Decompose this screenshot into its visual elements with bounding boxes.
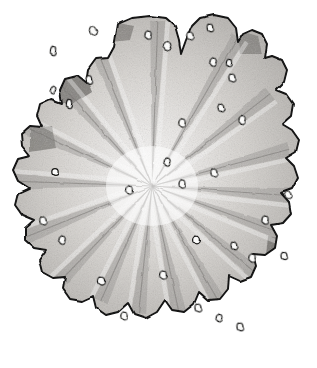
pore-30 [237, 323, 244, 331]
pore-11 [228, 74, 235, 83]
pore-3 [86, 75, 92, 84]
pore-4 [66, 99, 72, 109]
surface-pore [228, 74, 235, 83]
pore-22 [261, 216, 268, 225]
pore-28 [194, 304, 201, 313]
surface-pore [193, 236, 200, 244]
pore-12 [226, 59, 232, 67]
pore-27 [159, 271, 167, 280]
pore-32 [97, 277, 105, 285]
surface-pore [52, 169, 58, 176]
surface-pore [66, 99, 72, 109]
surface-pore [207, 24, 214, 32]
pore-8 [144, 31, 151, 40]
pore-16 [52, 169, 58, 176]
surface-pore [86, 75, 92, 84]
surface-pore [120, 312, 127, 320]
pore-15 [178, 118, 186, 127]
surface-pore [281, 252, 288, 260]
pore-9 [207, 24, 214, 32]
surface-pore [237, 323, 244, 331]
surface-pore [179, 180, 186, 189]
pore-31 [120, 312, 127, 320]
surface-pore [261, 216, 268, 225]
surface-pore [226, 59, 232, 67]
surface-pore [194, 304, 201, 313]
pore-19 [179, 180, 186, 189]
surface-pore [178, 118, 186, 127]
pore-23 [281, 252, 288, 260]
surface-pore [97, 277, 105, 285]
surface-pore [159, 271, 167, 280]
surface-pore [144, 31, 151, 40]
pore-25 [193, 236, 200, 244]
illustration-canvas [0, 0, 317, 368]
surface-pore [50, 46, 56, 56]
specimen-illustration [0, 0, 317, 368]
pore-2 [50, 46, 56, 56]
